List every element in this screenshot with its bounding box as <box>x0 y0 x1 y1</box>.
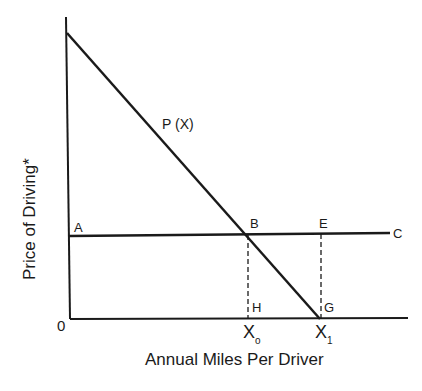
price-line-a-c <box>69 233 390 236</box>
point-label-h: H <box>252 300 261 315</box>
x0-tick-label: Xo <box>243 322 261 346</box>
origin-label: 0 <box>57 317 65 334</box>
x-axis-title: Annual Miles Per Driver <box>145 350 324 369</box>
point-label-g: G <box>324 300 334 315</box>
point-label-a: A <box>74 220 83 235</box>
demand-curve-p-x <box>67 33 320 319</box>
y-axis-title: Price of Driving* <box>20 158 39 280</box>
x-axis <box>70 318 408 319</box>
y-axis <box>66 17 70 319</box>
curve-label: P (X) <box>162 116 194 132</box>
x1-tick-label: X1 <box>315 322 333 346</box>
supply-demand-diagram: P (X) A B E C H G 0 Xo X1 Annual Miles P… <box>0 0 422 391</box>
point-label-b: B <box>250 216 259 231</box>
point-label-c: C <box>393 226 402 241</box>
point-label-e: E <box>319 216 328 231</box>
